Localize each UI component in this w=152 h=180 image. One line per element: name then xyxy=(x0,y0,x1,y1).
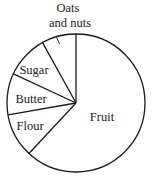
label-oats-line1: Oats xyxy=(57,2,80,15)
label-oats-line2: and nuts xyxy=(49,17,91,30)
label-sugar: Sugar xyxy=(19,64,48,77)
label-butter: Butter xyxy=(15,93,46,106)
label-fruit: Fruit xyxy=(90,111,114,124)
pie-chart: Oats and nuts Sugar Butter Flour Fruit xyxy=(0,0,152,180)
label-flour: Flour xyxy=(16,120,43,133)
